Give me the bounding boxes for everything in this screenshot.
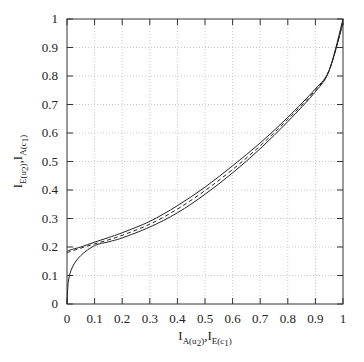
y-tick-label: 0.4 [42, 182, 59, 197]
y-tick-label: 0.1 [42, 268, 58, 283]
chart: 00.10.20.30.40.50.60.70.80.9100.10.20.30… [0, 0, 364, 362]
y-tick-label: 0.9 [42, 40, 58, 55]
y-tick-label: 0.5 [42, 154, 58, 169]
x-tick-label: 0.6 [224, 311, 241, 326]
y-tick-label: 0.7 [42, 97, 59, 112]
x-tick-label: 0.5 [197, 311, 213, 326]
y-tick-label: 0.3 [42, 211, 58, 226]
grid [67, 19, 343, 304]
x-axis-label: IA(u2),IE(c1) [178, 328, 231, 348]
x-tick-label: 0.4 [169, 311, 186, 326]
y-tick-label: 0.8 [42, 68, 58, 83]
x-tick-label: 0.8 [280, 311, 296, 326]
ticks: 00.10.20.30.40.50.60.70.80.9100.10.20.30… [42, 11, 347, 326]
x-tick-label: 0.3 [142, 311, 158, 326]
x-tick-label: 0.2 [114, 311, 130, 326]
y-tick-label: 0.2 [42, 239, 58, 254]
y-tick-label: 1 [52, 11, 59, 26]
x-tick-label: 0.7 [252, 311, 269, 326]
series-dashed [67, 22, 343, 253]
y-tick-label: 0 [52, 296, 59, 311]
y-tick-label: 0.6 [42, 125, 59, 140]
y-axis-label: IE(u2),IA(c1) [10, 135, 30, 188]
x-tick-label: 1 [340, 311, 347, 326]
x-tick-label: 0.1 [86, 311, 102, 326]
x-tick-label: 0 [64, 311, 71, 326]
x-tick-label: 0.9 [307, 311, 323, 326]
